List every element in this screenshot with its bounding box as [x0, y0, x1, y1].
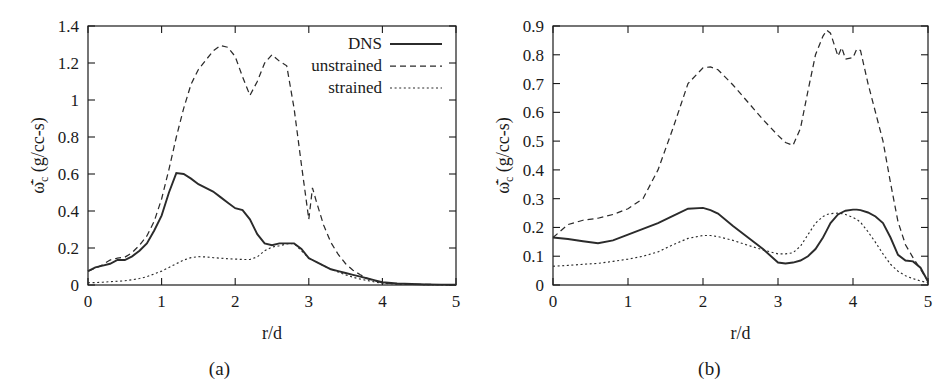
curves-a — [88, 45, 456, 284]
y-tick-label: 1 — [71, 91, 80, 110]
y-tick-label: 0.8 — [58, 128, 79, 147]
x-axis-title: r/d — [262, 323, 282, 343]
curve-DNS — [88, 173, 456, 285]
y-tick-label: 0.1 — [523, 247, 544, 266]
y-axis-title: ω̇̄c (g/cc-s) — [493, 117, 516, 194]
x-tick-label: 1 — [157, 292, 166, 311]
y-tick-label: 0.9 — [523, 17, 544, 36]
svg-text:ω̇̄c (g/cc-s): ω̇̄c (g/cc-s) — [28, 117, 51, 194]
legend-label-unstrained: unstrained — [311, 56, 382, 75]
labels-b: 01234500.10.20.30.40.50.60.70.80.9r/dω̇̄… — [493, 17, 932, 343]
x-tick-label: 5 — [924, 292, 933, 311]
x-tick-label: 4 — [378, 292, 387, 311]
curve-unstrained — [553, 30, 928, 281]
y-tick-label: 0.6 — [58, 165, 79, 184]
panel-caption-a: (a) — [0, 358, 453, 380]
curve-strained — [88, 243, 456, 284]
y-tick-label: 0 — [71, 276, 80, 295]
plot-frame — [553, 26, 928, 285]
legend-a: DNSunstrainedstrained — [311, 34, 442, 97]
y-tick-label: 0.2 — [523, 218, 544, 237]
panel-caption-b: (b) — [476, 358, 935, 380]
y-axis-title: ω̇̄c (g/cc-s) — [28, 117, 51, 194]
plot-svg-b: 01234500.10.20.30.40.50.60.70.80.9r/dω̇̄… — [468, 0, 935, 345]
x-tick-label: 2 — [231, 292, 240, 311]
x-axis-title: r/d — [731, 323, 751, 343]
legend-label-DNS: DNS — [348, 34, 382, 53]
x-tick-label: 4 — [849, 292, 858, 311]
x-tick-label: 5 — [452, 292, 461, 311]
curves-b — [553, 30, 928, 282]
x-tick-label: 3 — [305, 292, 314, 311]
panel-b: 01234500.10.20.30.40.50.60.70.80.9r/dω̇̄… — [468, 0, 935, 383]
panel-a: DNSunstrainedstrained 01234500.20.40.60.… — [0, 0, 467, 383]
x-tick-label: 3 — [774, 292, 783, 311]
axes-b — [553, 26, 928, 285]
y-tick-label: 0 — [536, 276, 545, 295]
x-tick-label: 0 — [84, 292, 93, 311]
plot-svg-a: DNSunstrainedstrained 01234500.20.40.60.… — [0, 0, 467, 345]
x-tick-label: 1 — [624, 292, 633, 311]
curve-unstrained — [88, 45, 456, 284]
y-tick-label: 0.2 — [58, 239, 79, 258]
y-tick-label: 0.6 — [523, 103, 544, 122]
legend-label-strained: strained — [328, 78, 382, 97]
y-tick-label: 0.7 — [523, 75, 545, 94]
x-tick-label: 2 — [699, 292, 708, 311]
y-tick-label: 0.3 — [523, 190, 544, 209]
y-tick-label: 1.2 — [58, 54, 79, 73]
y-tick-label: 0.4 — [523, 161, 545, 180]
y-tick-label: 0.4 — [58, 202, 80, 221]
svg-text:ω̇̄c (g/cc-s): ω̇̄c (g/cc-s) — [493, 117, 516, 194]
x-tick-label: 0 — [549, 292, 558, 311]
y-tick-label: 0.8 — [523, 46, 544, 65]
figure-container: DNSunstrainedstrained 01234500.20.40.60.… — [0, 0, 935, 383]
curve-strained — [553, 213, 928, 283]
y-tick-label: 1.4 — [58, 17, 80, 36]
y-tick-label: 0.5 — [523, 132, 544, 151]
curve-DNS — [553, 208, 928, 282]
